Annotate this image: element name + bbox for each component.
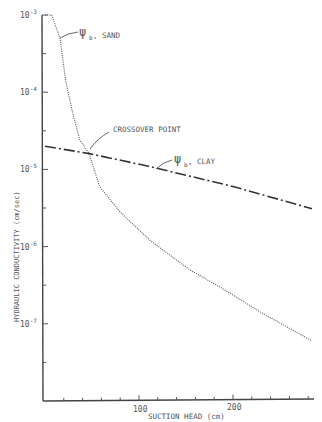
- y-tick-label-1e-6: 10-6: [20, 240, 37, 252]
- x-tick-label-200: 200: [227, 403, 242, 412]
- clay-leader-line: [156, 160, 172, 169]
- y-axis-title: HYDRAULIC CONDUCTIVITY (cm/sec): [13, 191, 21, 322]
- y-tick-label-1e-3: 10-3: [20, 8, 37, 20]
- clay-label: , CLAY: [188, 157, 216, 166]
- crossover-leader-line: [90, 132, 109, 149]
- axes: [42, 15, 314, 401]
- x-axis: [43, 399, 314, 401]
- crossover-label: CROSSOVER POINT: [113, 125, 181, 134]
- sand-curve: [45, 15, 312, 341]
- y-tick-label-1e-7: 10-7: [20, 317, 37, 329]
- y-tick-labels: 10-3 10-4 10-5 10-6 10-7: [20, 8, 37, 329]
- sand-psi: ψ: [79, 25, 86, 39]
- sand-leader-line: [60, 32, 78, 38]
- clay-psi: ψ: [174, 152, 181, 166]
- chart-canvas: 10-3 10-4 10-5 10-6 10-7 100 200 SUCTION…: [0, 0, 322, 422]
- sand-label: , SAND: [93, 31, 121, 40]
- x-tick-label-100: 100: [133, 405, 148, 414]
- y-tick-label-1e-5: 10-5: [20, 162, 37, 174]
- x-axis-title: SUCTION HEAD (cm): [148, 412, 225, 421]
- annotation-clay: ψ b , CLAY: [156, 152, 216, 169]
- annotation-crossover: CROSSOVER POINT: [90, 125, 181, 149]
- y-tick-label-1e-4: 10-4: [20, 85, 37, 97]
- annotation-sand: ψ b , SAND: [60, 25, 121, 41]
